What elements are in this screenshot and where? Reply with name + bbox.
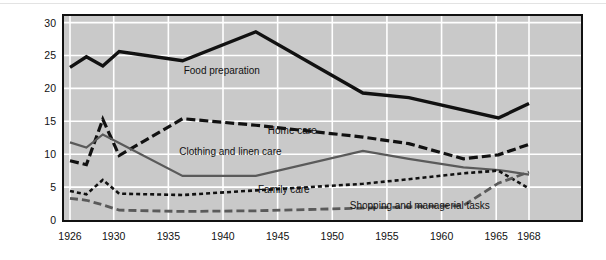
chart-container: Hours per week 051015202530 192619301935… bbox=[0, 0, 606, 260]
series-label-2: Clothing and linen care bbox=[179, 146, 281, 157]
series-annotation-labels: Food preparationHome careClothing and li… bbox=[0, 0, 606, 260]
series-label-0: Food preparation bbox=[184, 65, 260, 76]
series-label-3: Family care bbox=[258, 184, 310, 195]
series-label-4: Shopping and managerial tasks bbox=[350, 200, 490, 211]
series-label-1: Home care bbox=[268, 125, 317, 136]
